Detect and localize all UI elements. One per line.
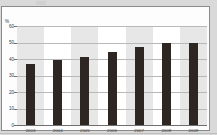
y-axis-tick-label: 40 — [3, 57, 14, 62]
y-axis-tick-label: 20 — [3, 90, 14, 95]
y-axis-tick — [14, 109, 17, 110]
gridline — [17, 26, 207, 27]
gridline — [17, 125, 207, 126]
y-axis-tick-label: 30 — [3, 73, 14, 78]
bar — [162, 43, 171, 126]
y-axis-tick — [14, 59, 17, 60]
page-rule — [0, 133, 217, 134]
bar — [53, 60, 62, 125]
y-axis-tick — [14, 125, 17, 126]
bar — [26, 64, 35, 125]
plot-area — [17, 26, 207, 125]
y-axis-tick — [14, 43, 17, 44]
y-axis-tick-labels: 0102030405060 — [2, 7, 14, 135]
y-axis-tick-label: 10 — [3, 106, 14, 111]
bar — [80, 57, 89, 125]
bar — [135, 47, 144, 125]
y-axis-tick — [14, 76, 17, 77]
chart-panel: % 0102030405060 200320042005200620072008… — [1, 6, 210, 131]
gridline — [17, 43, 207, 44]
y-axis-tick-label: 50 — [3, 40, 14, 45]
scan-artifact — [36, 1, 46, 5]
y-axis-tick — [14, 26, 17, 27]
bar — [108, 52, 117, 125]
y-axis-tick-label: 0 — [3, 123, 14, 128]
chart-figure: % 0102030405060 200320042005200620072008… — [0, 0, 217, 135]
y-axis-tick — [14, 92, 17, 93]
bar — [189, 43, 198, 126]
y-axis-tick-label: 60 — [3, 24, 14, 29]
